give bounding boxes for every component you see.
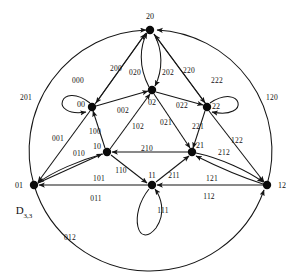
edge-02-21 [154,94,190,148]
node-label-00: 00 [77,100,85,109]
node-22 [203,103,211,111]
node-11 [148,181,156,189]
edge-11-21 [156,156,189,182]
edge-02-22 [156,92,203,105]
edge-01-20 [29,30,146,185]
de-bruijn-graph-svg [0,0,302,272]
figure-caption: D3,3 [16,204,33,219]
edge-12-21 [196,156,263,184]
node-12 [263,181,271,189]
node-label-11: 11 [148,171,156,180]
nodes-group [30,26,271,189]
node-label-21: 21 [196,141,204,150]
edges-group [29,30,272,271]
caption-subscript: 3,3 [24,212,33,220]
figure-container: 20 00 02 22 10 21 01 11 12 000 001 002 0… [0,0,302,272]
edge-02-20 [141,33,149,87]
edge-10-02 [110,94,150,149]
node-label-01: 01 [15,181,23,190]
node-20 [146,26,154,34]
node-21 [188,148,196,156]
node-02 [148,86,156,94]
node-10 [103,148,111,156]
edge-11-11-loop [137,189,162,235]
edge-01-12 [34,185,264,271]
node-00 [88,103,96,111]
node-label-10: 10 [93,142,101,151]
edge-10-11 [111,155,147,183]
edge-22-12 [209,111,264,182]
caption-main: D [16,204,24,216]
node-label-02: 02 [148,98,156,107]
edge-20-00 [96,33,146,103]
node-label-12: 12 [278,181,286,190]
edge-00-02 [96,91,148,106]
node-label-20: 20 [146,12,154,21]
node-label-22: 22 [212,102,220,111]
node-01 [30,181,38,189]
